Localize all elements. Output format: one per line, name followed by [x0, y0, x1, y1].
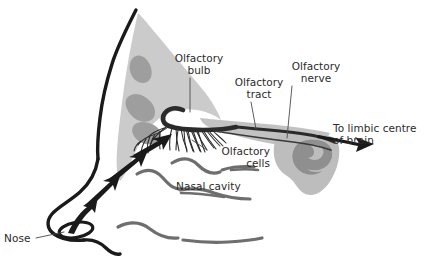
turbinate-line-5 [118, 223, 178, 238]
label-nasal-cavity: Nasal cavity [176, 180, 260, 192]
turbinate-line-6 [183, 238, 262, 242]
label-olfactory-bulb: Olfactory bulb [168, 52, 230, 76]
olfactory-system-diagram: Olfactory bulb Olfactory tract Olfactory… [0, 0, 431, 265]
olfactory-bulb [163, 108, 236, 130]
label-olfactory-tract: Olfactory tract [228, 76, 290, 100]
underline-cells [231, 169, 258, 170]
upper-lip-line [84, 240, 120, 254]
label-to-limbic-centre-of-brain: To limbic centre of brain [333, 122, 431, 146]
label-nose: Nose [4, 232, 38, 244]
nasal-cavity-turbinates [118, 159, 262, 242]
label-olfactory-cells: Olfactory cells [208, 145, 270, 169]
label-olfactory-nerve: Olfactory nerve [286, 60, 346, 84]
